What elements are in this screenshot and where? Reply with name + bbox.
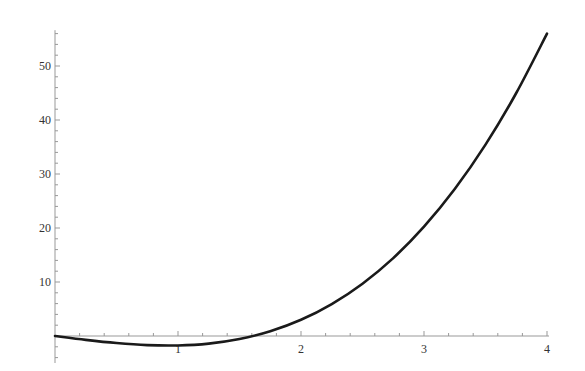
y-tick-label: 50 bbox=[39, 59, 51, 73]
y-tick-label: 10 bbox=[39, 275, 51, 289]
axes: 12341020304050 bbox=[39, 30, 550, 363]
line-chart: 12341020304050 bbox=[0, 0, 585, 371]
y-tick-label: 30 bbox=[39, 167, 51, 181]
function-curve bbox=[55, 34, 547, 346]
y-tick-label: 40 bbox=[39, 113, 51, 127]
series-layer bbox=[55, 34, 547, 346]
y-tick-label: 20 bbox=[39, 221, 51, 235]
x-tick-label: 4 bbox=[544, 342, 550, 356]
x-tick-label: 2 bbox=[298, 342, 304, 356]
x-tick-label: 3 bbox=[421, 342, 427, 356]
